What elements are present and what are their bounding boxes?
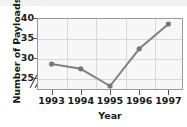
data-point-marker: [49, 61, 54, 66]
data-point-marker: [107, 83, 112, 88]
x-axis-title: Year: [37, 110, 183, 121]
series-line: [52, 24, 169, 86]
data-point-marker: [78, 66, 83, 71]
x-axis-tick-label: 1997: [151, 95, 185, 106]
line-chart: Number of Payloads 25303540 199319941995…: [0, 0, 187, 127]
series-markers: [49, 21, 171, 88]
x-axis-tick-labels: 19931994199519961997: [37, 95, 183, 109]
data-point-marker: [166, 21, 171, 26]
data-point-marker: [137, 46, 142, 51]
